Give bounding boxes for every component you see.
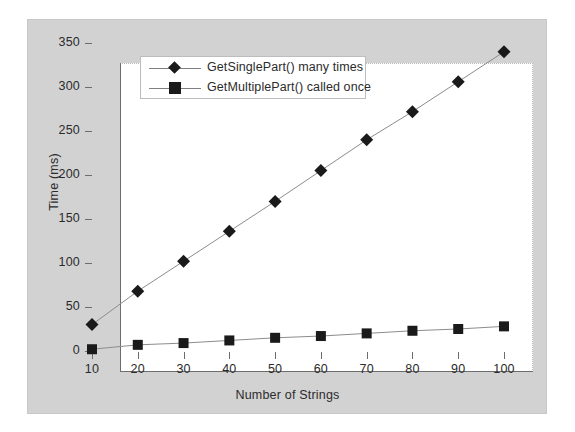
data-point-1-7 [407, 326, 417, 336]
series-1 [87, 321, 509, 354]
data-point-0-0 [86, 318, 99, 331]
data-point-0-1 [131, 285, 144, 298]
data-point-1-1 [133, 340, 143, 350]
square-marker-icon [169, 82, 181, 94]
diamond-marker-icon [168, 61, 181, 74]
data-point-0-5 [314, 164, 327, 177]
data-point-1-2 [179, 338, 189, 348]
data-point-1-0 [87, 344, 97, 354]
chart-legend: GetSinglePart() many times GetMultiplePa… [140, 56, 366, 99]
data-point-1-5 [316, 331, 326, 341]
data-point-1-3 [224, 335, 234, 345]
data-point-1-4 [270, 333, 280, 343]
data-point-0-6 [360, 133, 373, 146]
legend-item-1: GetMultiplePart() called once [141, 78, 367, 98]
data-point-0-2 [177, 255, 190, 268]
data-point-0-3 [223, 225, 236, 238]
data-point-1-6 [362, 328, 372, 338]
data-point-0-9 [498, 45, 511, 58]
data-point-1-8 [453, 324, 463, 334]
series-line-1 [92, 326, 504, 349]
data-point-0-4 [269, 195, 282, 208]
data-point-0-8 [452, 75, 465, 88]
legend-item-0: GetSinglePart() many times [141, 58, 367, 78]
data-point-1-9 [499, 321, 509, 331]
chart-figure: 050100150200250300350 102030405060708090… [0, 0, 575, 432]
legend-label-1: GetMultiplePart() called once [207, 80, 371, 94]
data-point-0-7 [406, 105, 419, 118]
legend-label-0: GetSinglePart() many times [207, 60, 363, 74]
